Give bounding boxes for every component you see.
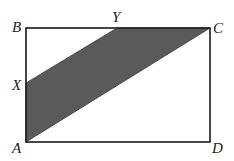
geometry-diagram: B Y C X A D [0, 0, 234, 161]
label-a: A [11, 140, 22, 156]
diagram-canvas: B Y C X A D [0, 0, 234, 161]
label-y: Y [112, 9, 122, 25]
label-d: D [211, 140, 223, 156]
shaded-parallelogram [26, 28, 210, 142]
label-x: X [11, 77, 22, 93]
label-b: B [12, 19, 21, 35]
label-c: C [213, 20, 224, 36]
